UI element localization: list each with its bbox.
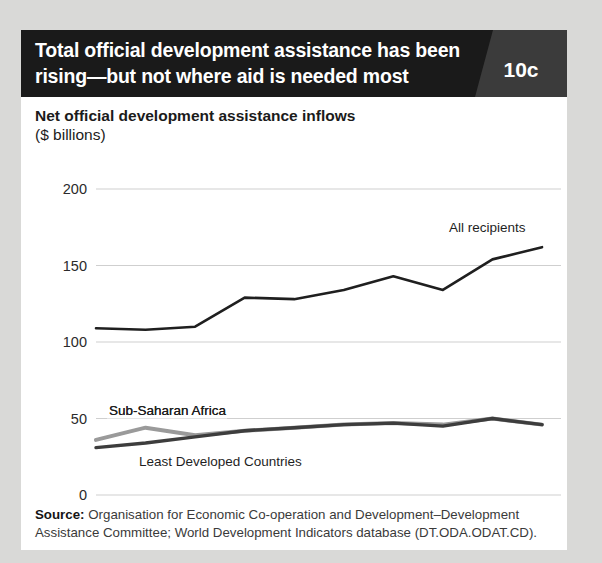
x-axis-tick-label: 2007 xyxy=(179,501,211,503)
chart-subtitle: Net official development assistance infl… xyxy=(35,106,355,144)
x-axis-tick-label: 2008 xyxy=(229,501,261,503)
chart-canvas: 0501001502002005200620072008200920102011… xyxy=(21,148,567,503)
series-line xyxy=(96,247,542,330)
figure-title: Total official development assistance ha… xyxy=(35,37,475,89)
y-axis-tick-label: 200 xyxy=(63,181,87,197)
x-axis-tick-label: 2011 xyxy=(378,501,409,503)
x-axis-tick-label: 2009 xyxy=(278,501,310,503)
source-note: Source: Organisation for Economic Co-ope… xyxy=(35,506,545,541)
chart-subtitle-line2: ($ billions) xyxy=(35,125,355,144)
source-label: Source: xyxy=(35,507,85,522)
series-label: All recipients xyxy=(449,220,526,235)
chart-subtitle-line1: Net official development assistance infl… xyxy=(35,106,355,125)
x-axis-tick-label: 2012 xyxy=(427,501,459,503)
line-chart: 0501001502002005200620072008200920102011… xyxy=(21,148,567,503)
figure-header: Total official development assistance ha… xyxy=(21,30,567,97)
series-label: Sub-Saharan Africa xyxy=(109,403,227,418)
x-axis-tick-label: 2013 xyxy=(476,501,508,503)
x-axis-tick-label: 2006 xyxy=(129,501,161,503)
y-axis-tick-label: 50 xyxy=(71,411,87,427)
x-axis-tick-label: 2014 xyxy=(526,501,558,503)
y-axis-tick-label: 100 xyxy=(63,334,87,350)
source-text: Organisation for Economic Co-operation a… xyxy=(35,507,537,540)
series-label: Least Developed Countries xyxy=(139,454,302,469)
x-axis-tick-label: 2010 xyxy=(328,501,360,503)
x-axis-tick-label: 2005 xyxy=(80,501,112,503)
figure-card: Total official development assistance ha… xyxy=(21,30,567,550)
series-line xyxy=(96,419,542,448)
figure-number-badge: 10c xyxy=(475,30,567,97)
y-axis-tick-label: 150 xyxy=(63,258,87,274)
